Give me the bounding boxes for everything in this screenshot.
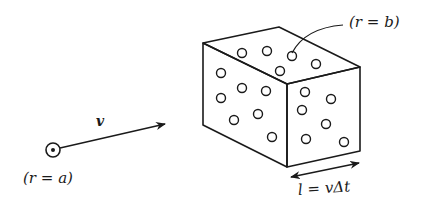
target-particle [301, 88, 310, 97]
target-particle [254, 110, 263, 119]
target-particle [302, 135, 311, 144]
target-particle [238, 84, 247, 93]
target-particle [322, 120, 331, 129]
target-particle [238, 49, 247, 58]
target-particles [217, 47, 349, 147]
target-particle [268, 133, 277, 142]
length-arrow [291, 163, 359, 177]
target-particle [298, 106, 307, 115]
leader-line [292, 25, 343, 53]
box-right-face [287, 67, 360, 167]
velocity-arrow [60, 124, 165, 148]
target-radius-label: (r = b) [349, 15, 400, 30]
target-particle [217, 94, 226, 103]
target-particle [327, 95, 336, 104]
target-particle [230, 116, 239, 125]
target-particle [262, 87, 271, 96]
target-particle [340, 138, 349, 147]
volume-box [203, 27, 360, 167]
target-particle [217, 69, 226, 78]
box-front-face [203, 43, 287, 167]
projectile-particle [46, 143, 60, 157]
diagram-svg [0, 0, 430, 220]
target-particle [276, 67, 285, 76]
target-particle [263, 47, 272, 56]
diagram-canvas: (r = a) (r = b) v l = vΔt [0, 0, 430, 220]
length-label: l = vΔt [297, 179, 350, 198]
target-particle [312, 60, 321, 69]
projectile-radius-label: (r = a) [23, 171, 73, 186]
velocity-label: v [96, 114, 104, 128]
